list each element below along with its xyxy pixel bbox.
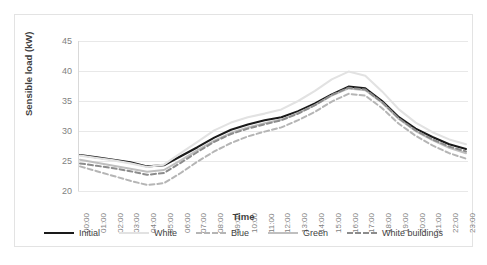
legend-item-white[interactable]: White [119,228,177,238]
plot-area: 202530354045 [78,41,468,191]
legend-swatch [196,232,226,234]
chart-legend: InitialWhiteBlueGreenWhite buildings [15,228,472,238]
y-axis-title: Sensible load (kW) [23,32,34,116]
legend-label: White [154,228,177,238]
y-axis-tick-label: 40 [62,67,72,76]
chart-container: Sensible load (kW) 202530354045 00:0001:… [14,14,473,247]
y-axis-tick-label: 30 [62,127,72,136]
legend-swatch [347,232,377,234]
y-axis-tick-label: 35 [62,97,72,106]
legend-item-green[interactable]: Green [268,228,328,238]
legend-swatch [44,232,74,234]
legend-item-initial[interactable]: Initial [44,228,100,238]
x-axis-title: Time [15,211,472,222]
y-axis-tick-label: 45 [62,37,72,46]
legend-label: Green [303,228,328,238]
legend-swatch [268,232,298,234]
series-lines [78,41,468,191]
legend-label: Initial [79,228,100,238]
legend-swatch [119,232,149,234]
y-axis-tick-label: 25 [62,157,72,166]
legend-label: Blue [231,228,249,238]
legend-item-blue[interactable]: Blue [196,228,249,238]
y-axis-tick-label: 20 [62,187,72,196]
gridline [78,191,468,192]
legend-label: White buildings [382,228,443,238]
series-line-blue [80,94,466,185]
legend-item-white-buildings[interactable]: White buildings [347,228,443,238]
